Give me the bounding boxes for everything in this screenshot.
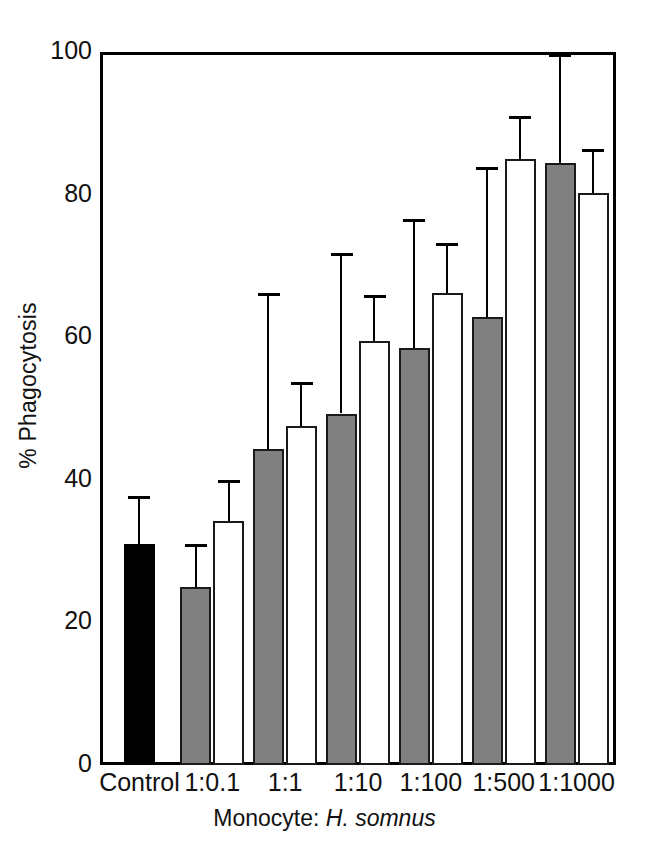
errorbar-white-1:1000-cap	[582, 149, 604, 152]
bar-white-1:0.1	[213, 521, 244, 765]
errorbar-gray-1:100-cap	[403, 219, 425, 222]
y-tick-label: 80	[8, 181, 92, 206]
errorbar-gray-1:100-line	[413, 221, 415, 348]
bar-gray-1:1	[253, 449, 284, 765]
errorbar-white-1:100-cap	[436, 243, 458, 246]
errorbar-gray-1:500-line	[486, 169, 488, 317]
bar-gray-1:0.1	[180, 587, 211, 765]
errorbar-gray-1:1-cap	[258, 293, 280, 296]
errorbar-white-1:1-line	[300, 384, 302, 426]
errorbar-white-1:500-cap	[509, 116, 531, 119]
errorbar-white-1:10-line	[373, 297, 375, 342]
x-tick-label-1:1000: 1:1000	[497, 770, 649, 795]
errorbar-white-1:1000-line	[592, 150, 594, 193]
x-axis-title-prefix: Monocyte:	[213, 805, 326, 831]
errorbar-control-Control-line	[138, 498, 140, 544]
errorbar-white-1:1-cap	[291, 382, 313, 385]
bars-layer	[103, 55, 613, 765]
bar-white-1:1000	[578, 193, 609, 765]
errorbar-white-1:0.1-line	[228, 481, 230, 521]
phagocytosis-bar-chart: % Phagocytosis 020406080100 Control1:0.1…	[0, 0, 649, 865]
errorbar-gray-1:1000-cap	[549, 54, 571, 57]
bar-gray-1:100	[399, 348, 430, 765]
bar-white-1:10	[359, 341, 390, 765]
bar-control-Control	[124, 544, 155, 765]
bar-gray-1:10	[326, 414, 357, 766]
y-tick-label: 60	[8, 323, 92, 348]
y-tick-label: 20	[8, 608, 92, 633]
errorbar-white-1:10-cap	[364, 295, 386, 298]
bar-white-1:100	[432, 293, 463, 765]
bar-white-1:1	[286, 426, 317, 765]
errorbar-gray-1:0.1-cap	[185, 544, 207, 547]
errorbar-white-1:500-line	[519, 118, 521, 159]
y-tick-label: 40	[8, 466, 92, 491]
bar-gray-1:1000	[545, 163, 576, 765]
errorbar-gray-1:10-line	[340, 254, 342, 413]
errorbar-gray-1:500-cap	[476, 167, 498, 170]
x-axis-title: Monocyte: H. somnus	[0, 805, 649, 832]
errorbar-gray-1:1000-line	[559, 56, 561, 163]
bar-gray-1:500	[472, 317, 503, 765]
errorbar-gray-1:10-cap	[331, 253, 353, 256]
errorbar-control-Control-cap	[128, 496, 150, 499]
errorbar-gray-1:0.1-line	[195, 545, 197, 586]
errorbar-gray-1:1-line	[267, 294, 269, 449]
bar-white-1:500	[505, 159, 536, 765]
x-axis-title-species: H. somnus	[326, 805, 436, 831]
errorbar-white-1:100-line	[446, 245, 448, 293]
errorbar-white-1:0.1-cap	[218, 480, 240, 483]
y-tick-label: 100	[8, 38, 92, 63]
